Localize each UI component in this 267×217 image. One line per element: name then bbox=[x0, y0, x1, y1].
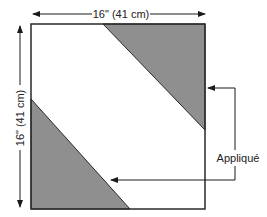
callout-label: Appliqué bbox=[217, 152, 260, 164]
quilt-block-diagram: 16" (41 cm) 16" (41 cm) Appliqué bbox=[0, 0, 267, 217]
callout-leader-top bbox=[208, 88, 235, 150]
height-label: 16" (41 cm) bbox=[14, 90, 26, 146]
width-label: 16" (41 cm) bbox=[93, 8, 149, 20]
